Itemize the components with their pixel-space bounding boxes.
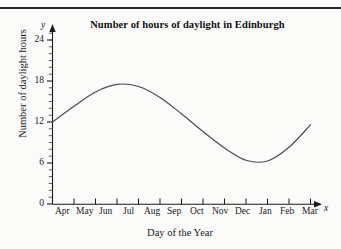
y-tick-label: 12 xyxy=(22,116,44,126)
x-axis-letter: x xyxy=(324,203,328,213)
y-tick-label: 24 xyxy=(22,34,44,44)
chart-figure: Number of hours of daylight in Edinburgh… xyxy=(0,0,341,249)
y-axis-letter: y xyxy=(41,20,45,30)
x-tick-label: Dec xyxy=(235,206,250,216)
y-axis-arrowhead xyxy=(49,24,55,32)
x-tick-label: Aug xyxy=(144,206,160,216)
x-tick-label: Jun xyxy=(99,206,112,216)
x-axis-ticks xyxy=(53,199,311,205)
y-tick-label: 6 xyxy=(22,157,44,167)
x-tick-label: Oct xyxy=(190,206,204,216)
top-divider-rule xyxy=(0,7,341,9)
x-tick-label: Jul xyxy=(123,206,134,216)
x-axis-title: Day of the Year xyxy=(60,227,300,238)
y-axis-minor-ticks xyxy=(49,33,53,197)
x-tick-label: Jan xyxy=(259,206,272,216)
y-axis-major-ticks xyxy=(47,40,53,204)
x-tick-label: Mar xyxy=(302,206,318,216)
chart-title: Number of hours of daylight in Edinburgh xyxy=(70,19,305,30)
y-tick-label: 0 xyxy=(22,198,44,208)
x-tick-label: Nov xyxy=(212,206,228,216)
x-tick-label: Sep xyxy=(167,206,181,216)
x-tick-label: Apr xyxy=(55,206,70,216)
daylight-curve xyxy=(53,84,311,162)
y-tick-label: 18 xyxy=(22,75,44,85)
x-tick-label: May xyxy=(76,206,93,216)
x-tick-label: Feb xyxy=(280,206,294,216)
